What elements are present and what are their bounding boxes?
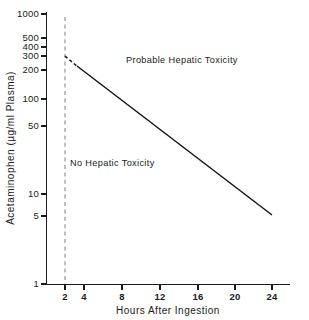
x-axis-tick-labels: 2 4 8 12 16 20 24 [62,291,278,302]
y-tick-label: 300 [23,50,39,61]
nomogram-figure: 1000 500 400 300 200 100 50 10 5 1 2 4 8 [0,0,309,320]
axis-frame [47,12,291,285]
treatment-line-dashed-head [65,56,78,67]
x-tick-label: 16 [193,291,204,302]
probable-hepatic-toxicity-label: Probable Hepatic Toxicity [126,55,238,65]
x-axis-ticks [65,285,272,291]
axes [47,12,291,285]
x-tick-label: 24 [267,291,278,302]
y-axis-title: Acetaminophen (µg/ml Plasma) [5,71,16,225]
y-tick-label: 5 [34,210,39,221]
y-tick-label: 100 [23,93,39,104]
x-tick-label: 8 [119,291,124,302]
y-tick-label: 50 [28,120,39,131]
x-tick-label: 4 [81,291,87,302]
treatment-line [77,66,272,215]
chart-canvas: 1000 500 400 300 200 100 50 10 5 1 2 4 8 [0,0,309,320]
y-tick-label: 1000 [17,8,39,19]
x-axis-title: Hours After Ingestion [116,305,220,316]
y-tick-label: 1 [34,278,39,289]
y-tick-label: 10 [28,188,39,199]
x-tick-label: 20 [230,291,241,302]
x-tick-label: 12 [155,291,166,302]
y-tick-label: 200 [23,64,39,75]
x-tick-label: 2 [62,291,67,302]
treatment-line-group [65,56,272,215]
y-axis-ticks [41,14,47,284]
y-axis-tick-labels: 1000 500 400 300 200 100 50 10 5 1 [17,8,39,289]
no-hepatic-toxicity-label: No Hepatic Toxicity [70,158,155,168]
